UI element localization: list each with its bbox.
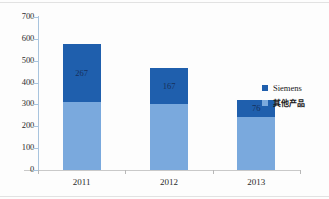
x-axis-label-2011: 2011 bbox=[52, 177, 112, 187]
x-axis-line bbox=[24, 170, 300, 171]
bar-stack-2012[interactable]: 167 bbox=[150, 17, 188, 170]
x-axis-label-2012: 2012 bbox=[139, 177, 199, 187]
x-axis-tick-mark bbox=[38, 170, 39, 174]
x-axis-tick-mark bbox=[213, 170, 214, 174]
page-border-bottom bbox=[0, 196, 329, 197]
legend-swatch-icon bbox=[262, 100, 268, 106]
y-axis-tick-mark bbox=[33, 83, 38, 84]
y-axis-line bbox=[38, 16, 39, 171]
y-axis-tick-mark bbox=[33, 104, 38, 105]
y-axis-tick-label: 0 bbox=[0, 165, 34, 174]
y-axis-tick-label: 500 bbox=[0, 56, 34, 65]
y-axis-tick-mark bbox=[33, 61, 38, 62]
y-axis-tick-mark bbox=[33, 126, 38, 127]
x-axis-label-2013: 2013 bbox=[226, 177, 286, 187]
bar-stack-2011[interactable]: 267 bbox=[63, 17, 101, 170]
y-axis-tick-mark bbox=[33, 148, 38, 149]
y-axis-tick-label: 400 bbox=[0, 78, 34, 87]
legend-item-1[interactable]: Siemens bbox=[262, 81, 305, 94]
bar-segment-other-2012[interactable] bbox=[150, 104, 188, 170]
x-axis-tick-mark bbox=[300, 170, 301, 174]
y-axis-tick-label: 300 bbox=[0, 99, 34, 108]
bar-segment-other-2011[interactable] bbox=[63, 102, 101, 170]
legend-item-2[interactable]: 其他产品 bbox=[262, 96, 305, 109]
y-axis-tick-mark bbox=[33, 17, 38, 18]
legend-swatch-icon bbox=[262, 85, 268, 91]
y-axis-tick-mark bbox=[33, 39, 38, 40]
y-axis-tick-label: 100 bbox=[0, 143, 34, 152]
page-border-top bbox=[0, 2, 329, 3]
x-axis-tick-mark bbox=[125, 170, 126, 174]
bar-value-label-2011: 267 bbox=[63, 68, 101, 78]
y-axis-tick-label: 700 bbox=[0, 12, 34, 21]
legend-label: Siemens bbox=[273, 83, 302, 93]
chart-legend: Siemens其他产品 bbox=[262, 81, 305, 111]
bar-value-label-2012: 167 bbox=[150, 81, 188, 91]
y-axis-tick-label: 200 bbox=[0, 121, 34, 130]
legend-label: 其他产品 bbox=[273, 97, 305, 108]
chart-screenshot: 0100200300400500600700 26716776 20112012… bbox=[0, 0, 329, 199]
bar-segment-other-2013[interactable] bbox=[237, 117, 275, 170]
y-axis-tick-label: 600 bbox=[0, 34, 34, 43]
